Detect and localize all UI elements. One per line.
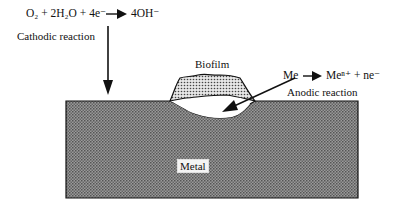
anodic-equation-left: Me [283,70,298,82]
anodic-equation-right: Meⁿ⁺ + ne⁻ [326,70,380,82]
cathodic-reaction-label: Cathodic reaction [17,31,95,42]
anodic-reaction-label: Anodic reaction [287,87,358,98]
down-arrowhead-icon [103,80,113,95]
cathodic-equation-right: 4OH⁻ [131,8,159,20]
biofilm-label: Biofilm [195,59,229,70]
cathodic-arrowhead-icon [117,9,127,19]
metal-label: Metal [177,159,209,173]
anodic-arrowhead-icon [312,71,322,81]
cathodic-equation-left: O₂ + 2H₂O + 4e⁻ [26,8,106,20]
